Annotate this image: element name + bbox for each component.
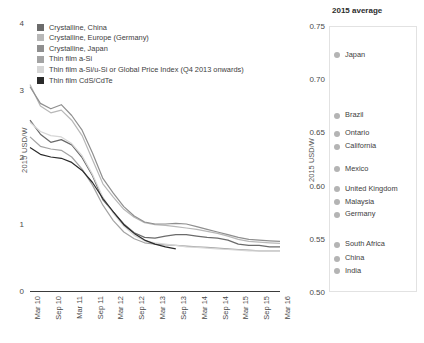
x-tick-label: Mar 12 [116, 296, 125, 319]
x-tick-label: Mar 16 [283, 296, 292, 319]
legend-swatch-icon [37, 45, 44, 52]
series-line [30, 137, 280, 251]
country-label: Germany [345, 211, 375, 218]
country-label: Ontario [345, 130, 369, 137]
point-marker-icon [334, 186, 340, 192]
legend-item-label: Crystalline, Europe (Germany) [49, 34, 149, 41]
country-point[interactable]: Japan [334, 52, 365, 59]
series-line [30, 122, 280, 251]
legend-item[interactable]: Crystalline, Europe (Germany) [37, 33, 244, 44]
x-tick-label: Mar 14 [200, 296, 209, 319]
point-marker-icon [334, 144, 340, 150]
legend-swatch-icon [37, 24, 44, 31]
point-marker-icon [334, 268, 340, 274]
x-tick-label: Sep 15 [262, 296, 271, 320]
country-label: Japan [345, 51, 365, 58]
point-marker-icon [334, 52, 340, 58]
legend-item-label: Crystalline, China [49, 24, 107, 31]
right-y-axis-label: 2015 USD/W [307, 138, 316, 182]
x-tick-label: Sep 13 [179, 296, 188, 320]
country-label: Malaysia [345, 198, 374, 205]
legend-item-label: Thin film CdS/CdTe [49, 77, 113, 84]
x-tick-label: Sep 11 [96, 296, 105, 319]
legend-item[interactable]: Crystalline, China [37, 22, 244, 33]
average-panel: 2015 average 2015 USD/W 0.500.550.600.65… [296, 0, 424, 343]
country-label: United Kingdom [345, 185, 398, 192]
legend-swatch-icon [37, 34, 44, 41]
point-marker-icon [334, 256, 340, 262]
country-point[interactable]: Malaysia [334, 199, 374, 206]
country-label: Brazil [345, 112, 363, 119]
x-tick-label: Sep 12 [137, 296, 146, 320]
country-point[interactable]: United Kingdom [334, 186, 398, 193]
legend-item-label: Thin film a-Si [49, 55, 92, 62]
legend-swatch-icon [37, 56, 44, 63]
point-marker-icon [334, 131, 340, 137]
country-label: California [345, 143, 376, 150]
country-label: Mexico [345, 165, 368, 172]
x-tick-label: Sep 14 [221, 296, 230, 320]
chart-canvas: 2015 USD/W 01234 Mar 10Sep 10Mar 11Sep 1… [0, 0, 424, 343]
right-y-tick: 0.50 [299, 292, 325, 301]
point-marker-icon [334, 212, 340, 218]
right-y-tick: 0.70 [299, 79, 325, 88]
right-y-tick: 0.75 [299, 26, 325, 35]
series-line [30, 85, 280, 244]
country-point[interactable]: Germany [334, 211, 375, 218]
country-point[interactable]: India [334, 268, 361, 275]
legend-swatch-icon [37, 77, 44, 84]
legend-item[interactable]: Thin film a-Si/u-Si or Global Price Inde… [37, 64, 244, 75]
right-y-tick: 0.55 [299, 239, 325, 248]
average-plot-area [329, 26, 417, 292]
average-panel-title: 2015 average [332, 6, 382, 15]
legend: Crystalline, ChinaCrystalline, Europe (G… [37, 22, 244, 86]
country-point[interactable]: China [334, 255, 364, 262]
country-point[interactable]: South Africa [334, 241, 385, 248]
x-tick-label: Mar 15 [241, 296, 250, 319]
legend-swatch-icon [37, 66, 44, 73]
legend-item[interactable]: Thin film a-Si [37, 54, 244, 65]
country-point[interactable]: Mexico [334, 166, 368, 173]
country-label: South Africa [345, 240, 385, 247]
point-marker-icon [334, 199, 340, 205]
point-marker-icon [334, 113, 340, 119]
right-y-tick: 0.60 [299, 186, 325, 195]
country-label: India [345, 267, 361, 274]
country-point[interactable]: Brazil [334, 112, 363, 119]
x-tick-label: Sep 10 [54, 296, 63, 320]
legend-item[interactable]: Thin film CdS/CdTe [37, 75, 244, 86]
x-tick-label: Mar 13 [158, 296, 167, 319]
point-marker-icon [334, 166, 340, 172]
timeseries-panel: 2015 USD/W 01234 Mar 10Sep 10Mar 11Sep 1… [0, 0, 300, 343]
legend-item[interactable]: Crystalline, Japan [37, 43, 244, 54]
series-line [30, 87, 280, 242]
series-line [30, 148, 176, 249]
legend-item-label: Thin film a-Si/u-Si or Global Price Inde… [49, 66, 244, 73]
x-tick-label: Mar 11 [75, 296, 84, 319]
legend-item-label: Crystalline, Japan [49, 45, 108, 52]
x-axis-line [30, 291, 280, 292]
country-point[interactable]: Ontario [334, 130, 369, 137]
point-marker-icon [334, 242, 340, 248]
right-y-tick: 0.65 [299, 132, 325, 141]
x-tick-label: Mar 10 [33, 296, 42, 319]
country-label: China [345, 254, 364, 261]
series-line [30, 120, 280, 247]
country-point[interactable]: California [334, 143, 376, 150]
